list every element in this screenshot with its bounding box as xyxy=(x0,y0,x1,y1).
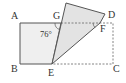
label-a: A xyxy=(11,10,19,21)
label-e: E xyxy=(48,67,54,78)
label-d: D xyxy=(108,9,115,20)
geometry-diagram: A B C D E F G 76° xyxy=(0,0,126,83)
label-c: C xyxy=(113,63,120,74)
label-b: B xyxy=(11,63,18,74)
label-f: F xyxy=(100,23,106,34)
label-g: G xyxy=(53,10,60,21)
angle-label-76: 76° xyxy=(40,29,52,39)
